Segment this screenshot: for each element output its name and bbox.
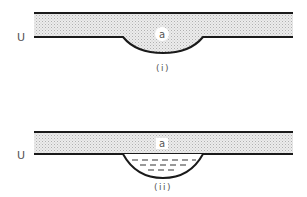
fluid-pocket-outline [123,154,203,178]
caption-i: (i) [156,63,170,73]
layer-label-a: a [159,29,165,40]
caption-ii: (ii) [154,182,172,192]
layer-label-a: a [159,138,165,149]
diagram-canvas: a U (i) a U (ii) [0,0,307,197]
diagram-ii: a U (ii) [17,132,293,192]
side-label-u: U [17,149,25,162]
side-label-u: U [17,31,25,44]
diagram-i: a U (i) [17,13,293,73]
